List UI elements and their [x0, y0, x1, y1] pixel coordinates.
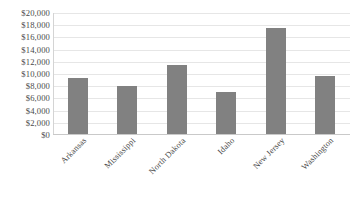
- y-axis-tick-label: $20,000: [0, 9, 50, 18]
- y-axis-tick-label: $2,000: [0, 118, 50, 127]
- bar: [167, 65, 187, 135]
- bar: [68, 78, 88, 135]
- bar: [117, 86, 137, 135]
- x-axis-tick-label: Washington: [285, 136, 335, 186]
- bar: [315, 76, 335, 135]
- y-axis-tick-label: $14,000: [0, 45, 50, 54]
- bar: [216, 92, 236, 135]
- y-axis-tick-label: $10,000: [0, 70, 50, 79]
- x-axis-tick-label: Mississippi: [87, 136, 137, 186]
- x-axis: ArkansasMississippiNorth DakotaIdahoNew …: [53, 136, 350, 202]
- bar-series: [53, 13, 350, 135]
- x-axis-tick-label: New Jersey: [236, 136, 286, 186]
- y-axis-tick-label: $0: [0, 131, 50, 140]
- y-axis-tick-label: $12,000: [0, 57, 50, 66]
- x-axis-tick-label: North Dakota: [137, 136, 187, 186]
- y-axis-tick-label: $16,000: [0, 33, 50, 42]
- y-axis: $0$2,000$4,000$6,000$8,000$10,000$12,000…: [0, 0, 50, 204]
- plot-area: [53, 13, 350, 135]
- y-axis-tick-label: $8,000: [0, 82, 50, 91]
- y-axis-tick-label: $6,000: [0, 94, 50, 103]
- y-axis-tick-label: $18,000: [0, 21, 50, 30]
- x-axis-tick-label: Idaho: [186, 136, 236, 186]
- bar: [266, 28, 286, 135]
- x-axis-line: [53, 134, 350, 135]
- bar-chart: $0$2,000$4,000$6,000$8,000$10,000$12,000…: [0, 0, 357, 204]
- y-axis-tick-label: $4,000: [0, 106, 50, 115]
